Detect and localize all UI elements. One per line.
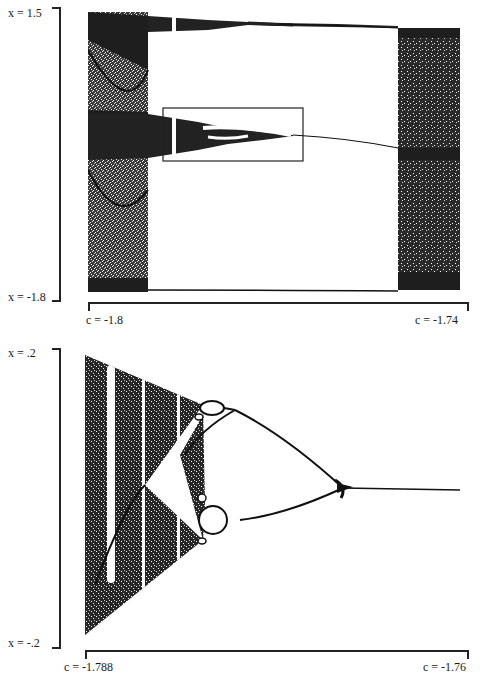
lower-y-axis-bracket (52, 348, 61, 649)
upper-y-top-label: x = 1.5 (8, 6, 42, 20)
upper-right-chaotic-region (398, 28, 460, 290)
upper-plot-area (88, 10, 463, 295)
upper-x-left-label: c = -1.8 (86, 313, 123, 327)
lower-x-left-label: c = -1.788 (64, 660, 113, 674)
lower-x-right-label: c = -1.76 (423, 660, 466, 674)
lower-x-axis-bracket (85, 650, 469, 659)
upper-y-axis-bracket (52, 7, 61, 302)
chaotic-wedge (85, 355, 210, 640)
lower-y-top-label: x = .2 (8, 346, 36, 360)
upper-x-axis-bracket (88, 302, 469, 311)
lower-plot-area (85, 355, 465, 640)
lower-y-bottom-label: x = -.2 (8, 636, 40, 650)
upper-x-right-label: c = -1.74 (415, 313, 458, 327)
upper-y-bottom-label: x = -1.8 (8, 290, 46, 304)
